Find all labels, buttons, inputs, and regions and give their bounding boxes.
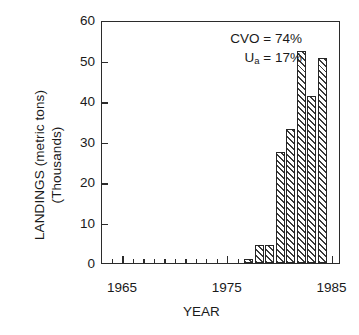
- bar: [286, 129, 295, 263]
- x-axis-tick-mark: [154, 259, 155, 263]
- x-axis-tick-mark: [206, 259, 207, 263]
- x-axis-tick-mark: [196, 259, 197, 263]
- bar: [255, 245, 264, 263]
- x-axis-title-text: YEAR: [183, 304, 220, 319]
- x-axis-title: YEAR: [0, 305, 359, 319]
- x-axis-tick-mark: [332, 256, 333, 263]
- x-axis-tick-mark: [164, 259, 165, 263]
- x-axis-tick-mark: [227, 256, 228, 263]
- bar: [297, 51, 306, 263]
- x-axis-tick-mark: [175, 259, 176, 263]
- x-axis-tick-label: 1985: [317, 281, 347, 295]
- bar: [307, 96, 316, 263]
- y-axis-tick-mark: [102, 183, 108, 184]
- y-axis-tick-label: 60: [61, 14, 95, 28]
- x-axis-tick-label: 1965: [107, 281, 137, 295]
- x-axis-tick-mark: [238, 259, 239, 263]
- y-axis-tick-mark: [102, 224, 108, 225]
- y-axis-title-line1: LANDINGS (metric tons): [32, 40, 49, 290]
- bar: [318, 58, 327, 263]
- y-axis-tick-label: 20: [61, 176, 95, 190]
- annotation-ua-symbol: U: [245, 50, 255, 65]
- x-axis-tick-mark: [122, 256, 123, 263]
- y-axis-tick-mark: [102, 143, 108, 144]
- annotation-ua-value: = 17%: [260, 50, 302, 65]
- annotation-cvo: CVO = 74%: [150, 29, 302, 48]
- x-axis-tick-mark: [133, 259, 134, 263]
- x-axis-tick-label: 1975: [212, 281, 242, 295]
- x-axis-tick-mark: [143, 259, 144, 263]
- y-axis-tick-label: 50: [61, 55, 95, 69]
- chart-annotation: CVO = 74% Ua = 17%: [150, 29, 302, 70]
- y-axis-tick-label: 0: [61, 257, 95, 271]
- x-axis-tick-mark: [217, 259, 218, 263]
- y-axis-tick-mark: [102, 102, 108, 103]
- y-axis-tick-labels: 0102030405060: [57, 0, 95, 335]
- bar: [244, 259, 253, 263]
- x-axis-tick-mark: [112, 259, 113, 263]
- chart-figure: LANDINGS (metric tons) (Thousands) 01020…: [0, 0, 359, 335]
- annotation-ua: Ua = 17%: [150, 48, 302, 70]
- y-axis-tick-label: 30: [61, 136, 95, 150]
- y-axis-tick-label: 40: [61, 95, 95, 109]
- bar: [265, 245, 274, 263]
- y-axis-tick-mark: [102, 62, 108, 63]
- y-axis-tick-label: 10: [61, 217, 95, 231]
- x-axis-tick-mark: [185, 259, 186, 263]
- bar: [276, 152, 285, 263]
